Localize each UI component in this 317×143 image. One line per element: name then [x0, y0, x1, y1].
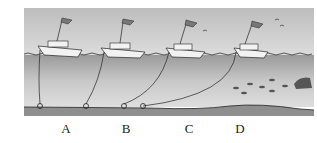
label-d: D: [230, 121, 250, 137]
boats-anchor-diagram: A B C D: [0, 0, 317, 143]
illustration: [0, 0, 317, 143]
label-a: A: [56, 121, 76, 137]
label-c: C: [179, 121, 199, 137]
sky: [24, 8, 314, 55]
label-b: B: [116, 121, 136, 137]
